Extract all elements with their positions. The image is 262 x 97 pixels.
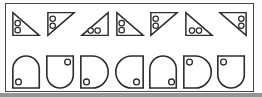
rounded-shape-7-curve-bottom-dot-top-left [215, 53, 249, 91]
scanned-page-background [0, 0, 262, 97]
triangle-7-top-right-dots-right [217, 10, 249, 38]
rounded-shape-6-curve-right-dot-top-left [181, 53, 215, 91]
dot-circle [239, 23, 244, 28]
dot-circle [239, 16, 244, 21]
dot-circle [84, 79, 90, 85]
rounded-shapes-row [10, 53, 249, 91]
triangles-row [10, 10, 249, 38]
rounded-shape-5-curve-top-dot-bottom-right [147, 53, 181, 91]
dot-circle [134, 79, 140, 85]
dot-circle [15, 27, 20, 32]
triangle-4-bottom-left-dots-left [114, 10, 146, 38]
scan-shadow-band [0, 93, 262, 97]
dot-circle [189, 28, 194, 33]
dot-circle [186, 59, 192, 65]
triangle-5-top-left-dots-left [148, 10, 180, 38]
rounded-shape-4-curve-left-dot-bottom-right [112, 53, 146, 91]
triangle-2-top-left-dots-left [45, 10, 77, 38]
dot-circle [15, 20, 20, 25]
dot-circle [118, 20, 123, 25]
rounded-shape-3-curve-right-dot-bottom-left [78, 53, 112, 91]
dot-circle [221, 59, 227, 65]
dot-circle [95, 28, 100, 33]
dot-circle [49, 16, 54, 21]
rounded-shape-1-curve-top-dot-bottom-left [10, 53, 44, 91]
dot-circle [153, 23, 158, 28]
triangle-3-bottom-right-dots-bottom [79, 10, 111, 38]
dot-circle [118, 27, 123, 32]
dot-circle [65, 59, 71, 65]
dot-circle [49, 23, 54, 28]
dot-circle [196, 28, 201, 33]
dot-circle [168, 79, 174, 85]
dot-circle [16, 79, 22, 85]
puzzle-frame [5, 3, 254, 92]
triangle-1-bottom-left-dots-left [10, 10, 42, 38]
dot-circle [153, 16, 158, 21]
rounded-shape-2-curve-bottom-dot-top-right [44, 53, 78, 91]
dot-circle [88, 28, 93, 33]
triangle-6-bottom-left-dots-bottom [183, 10, 215, 38]
